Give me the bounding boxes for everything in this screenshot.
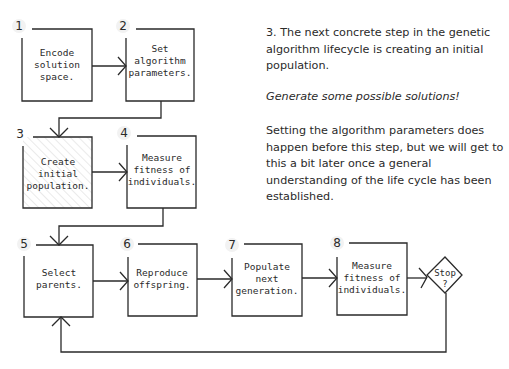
step-7-line-3: generation. <box>236 285 299 296</box>
emphasis-text: Generate some possible solutions! <box>266 89 506 106</box>
step-1-line-3: space. <box>40 71 74 82</box>
step-7-line-1: Populate <box>244 261 290 272</box>
step-box-2: 2 Set algorithm parameters. <box>116 19 194 101</box>
step-number-3: 3 <box>16 127 24 141</box>
step-box-6: 6 Reproduce offspring. <box>120 237 197 316</box>
step-2-line-3: parameters. <box>129 67 192 78</box>
arrow-1-to-2 <box>92 57 126 75</box>
arrow-8-to-decision <box>407 268 427 288</box>
step-5-line-2: parents. <box>36 279 82 290</box>
step-3-line-3: population. <box>27 180 90 191</box>
step-2-line-1: Set <box>151 43 168 54</box>
step-7-line-2: next <box>256 273 279 284</box>
step-box-7: 7 Populate next generation. <box>225 238 302 316</box>
description-paragraph-2: Setting the algorithm parameters does ha… <box>266 123 506 206</box>
description-paragraph-1: 3. The next concrete step in the genetic… <box>266 25 506 75</box>
step-2-line-2: algorithm <box>134 55 186 66</box>
arrow-5-to-6 <box>93 272 128 290</box>
step-8-line-1: Measure <box>352 260 392 271</box>
loop-back-arrow <box>52 293 446 352</box>
step-box-5: 5 Select parents. <box>17 237 93 317</box>
step-number-5: 5 <box>20 237 28 251</box>
decision-line-1: Stop <box>434 268 456 278</box>
arrow-3-to-4 <box>92 163 127 181</box>
paragraph-2-text: Setting the algorithm parameters does ha… <box>266 123 506 206</box>
step-number-8: 8 <box>333 236 341 250</box>
step-5-line-1: Select <box>42 267 76 278</box>
decision-diamond: Stop ? <box>427 257 462 293</box>
step-8-line-2: fitness of <box>343 272 400 283</box>
paragraph-1-text: 3. The next concrete step in the genetic… <box>266 25 506 75</box>
step-number-7: 7 <box>228 238 236 252</box>
step-box-1: 1 Encode solution space. <box>12 19 92 101</box>
arrow-7-to-8 <box>302 269 337 287</box>
step-3-line-2: initial <box>38 168 78 179</box>
step-4-line-1: Measure <box>142 152 182 163</box>
step-box-3: 3 Create initial population. <box>13 127 92 208</box>
step-number-1: 1 <box>15 19 23 33</box>
step-3-line-1: Create <box>41 156 76 167</box>
step-number-2: 2 <box>119 19 127 33</box>
step-4-line-3: individuals. <box>128 176 197 187</box>
arrow-4-to-5 <box>50 208 163 245</box>
step-box-8: 8 Measure fitness of individuals. <box>330 236 407 315</box>
step-number-6: 6 <box>123 237 131 251</box>
step-1-line-1: Encode <box>40 47 75 58</box>
step-8-line-3: individuals. <box>338 284 407 295</box>
step-box-4: 4 Measure fitness of individuals. <box>117 126 196 208</box>
step-6-line-1: Reproduce <box>136 267 188 278</box>
step-number-4: 4 <box>120 126 128 140</box>
step-6-line-2: offspring. <box>133 279 190 290</box>
arrow-2-to-3 <box>50 101 161 137</box>
arrow-6-to-7 <box>197 270 232 288</box>
step-4-line-2: fitness of <box>133 164 190 175</box>
step-1-line-2: solution <box>34 59 80 70</box>
description-emphasis: Generate some possible solutions! <box>266 89 506 106</box>
decision-line-2: ? <box>442 279 447 289</box>
